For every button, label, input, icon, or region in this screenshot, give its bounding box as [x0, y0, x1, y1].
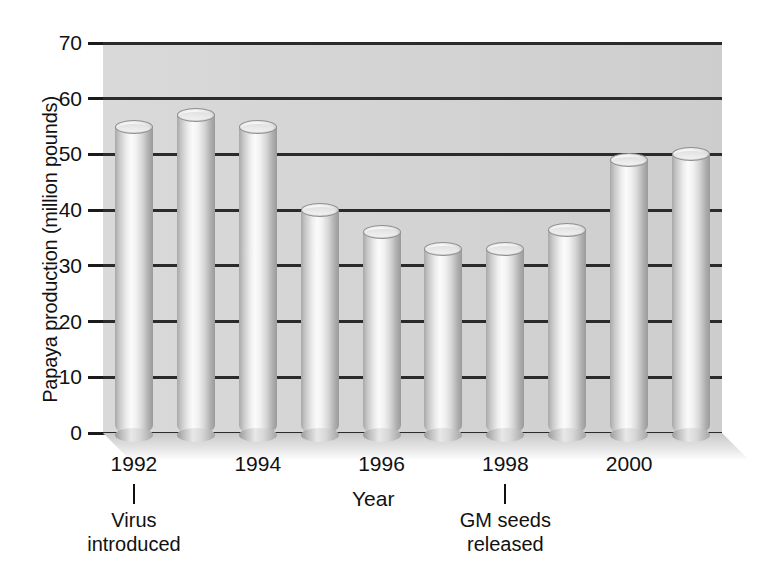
x-axis-tick-label: 1992 — [111, 452, 158, 476]
x-axis-tick-label: 1994 — [234, 452, 281, 476]
y-axis-tick — [88, 376, 103, 379]
annotation-stem — [133, 484, 135, 504]
x-axis-title: Year — [352, 487, 394, 511]
annotation-stem — [504, 484, 506, 504]
y-axis-tick — [88, 320, 103, 323]
y-axis-tick — [88, 209, 103, 212]
annotation-line-2: introduced — [87, 533, 180, 557]
x-axis-tick-label: 1998 — [482, 452, 529, 476]
y-axis-tick — [88, 264, 103, 267]
annotation-line-1: Virus — [111, 509, 156, 531]
annotation-label: Virusintroduced — [87, 509, 180, 556]
y-axis-tick — [88, 42, 103, 45]
chart-figure: Papaya production (million pounds) 70605… — [0, 0, 771, 582]
y-axis-tick — [88, 97, 103, 100]
annotation-label: GM seedsreleased — [460, 509, 551, 556]
annotation-line-1: GM seeds — [460, 509, 551, 531]
y-axis-tick — [88, 432, 103, 435]
x-axis-tick-label: 1996 — [358, 452, 405, 476]
y-axis-tick — [88, 153, 103, 156]
x-axis-tick-label: 2000 — [606, 452, 653, 476]
annotation-line-2: released — [460, 533, 551, 557]
